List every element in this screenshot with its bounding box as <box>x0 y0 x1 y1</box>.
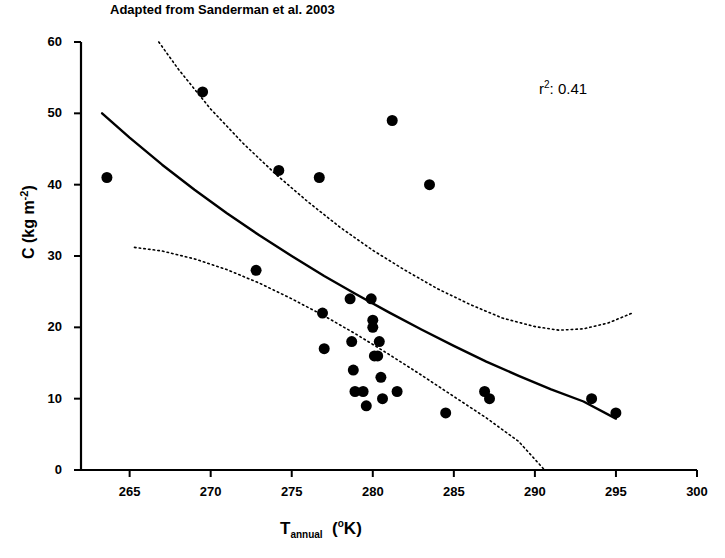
x-tick-label-265: 265 <box>110 484 150 499</box>
data-point <box>586 393 597 404</box>
regression-fit <box>102 113 616 418</box>
y-axis-label-base: C (kg m <box>20 200 37 259</box>
x-tick-label-280: 280 <box>353 484 393 499</box>
data-point <box>358 386 369 397</box>
data-point <box>375 372 386 383</box>
degree-symbol: o <box>338 518 344 529</box>
data-points <box>101 86 621 418</box>
data-point <box>348 365 359 376</box>
confidence-bands <box>135 42 633 470</box>
y-tick-label-0: 0 <box>36 462 62 477</box>
data-point <box>319 343 330 354</box>
data-point <box>387 115 398 126</box>
data-point <box>377 393 388 404</box>
x-tick-label-270: 270 <box>191 484 231 499</box>
x-tick-label-275: 275 <box>272 484 312 499</box>
data-point <box>345 293 356 304</box>
data-point <box>251 265 262 276</box>
data-point <box>317 308 328 319</box>
y-tick-label-30: 30 <box>36 248 62 263</box>
y-axis-label-exponent: -2 <box>18 191 30 201</box>
r-squared-annotation: r2: 0.41 <box>539 79 587 97</box>
y-axis-label-close: ) <box>20 185 37 190</box>
fit-curve <box>102 113 616 418</box>
x-axis-label-base: T <box>280 519 290 538</box>
x-axis-label-unit: (oK) <box>332 519 362 538</box>
data-point <box>372 350 383 361</box>
data-point <box>361 400 372 411</box>
chart-title: Adapted from Sanderman et al. 2003 <box>110 2 335 17</box>
data-point <box>484 393 495 404</box>
data-point <box>346 336 357 347</box>
y-tick-label-20: 20 <box>36 319 62 334</box>
data-point <box>101 172 112 183</box>
y-tick-label-40: 40 <box>36 177 62 192</box>
x-axis-label-subscript: annual <box>290 529 322 540</box>
y-tick-label-50: 50 <box>36 105 62 120</box>
y-tick-label-60: 60 <box>36 34 62 49</box>
x-axis-label: Tannual (oK) <box>280 518 362 540</box>
r-squared-value: : 0.41 <box>550 80 588 97</box>
x-tick-label-285: 285 <box>434 484 474 499</box>
plot-area <box>0 0 725 558</box>
data-point <box>273 165 284 176</box>
data-point <box>374 336 385 347</box>
data-point <box>610 407 621 418</box>
data-point <box>440 407 451 418</box>
lower-confidence-band <box>135 247 545 470</box>
data-point <box>392 386 403 397</box>
data-point <box>197 86 208 97</box>
data-point <box>424 179 435 190</box>
x-tick-label-300: 300 <box>677 484 717 499</box>
data-point <box>366 293 377 304</box>
x-tick-label-290: 290 <box>515 484 555 499</box>
x-tick-label-295: 295 <box>596 484 636 499</box>
data-point <box>314 172 325 183</box>
data-point <box>367 322 378 333</box>
y-tick-label-10: 10 <box>36 391 62 406</box>
figure-container: Adapted from Sanderman et al. 2003 r2: 0… <box>0 0 725 558</box>
